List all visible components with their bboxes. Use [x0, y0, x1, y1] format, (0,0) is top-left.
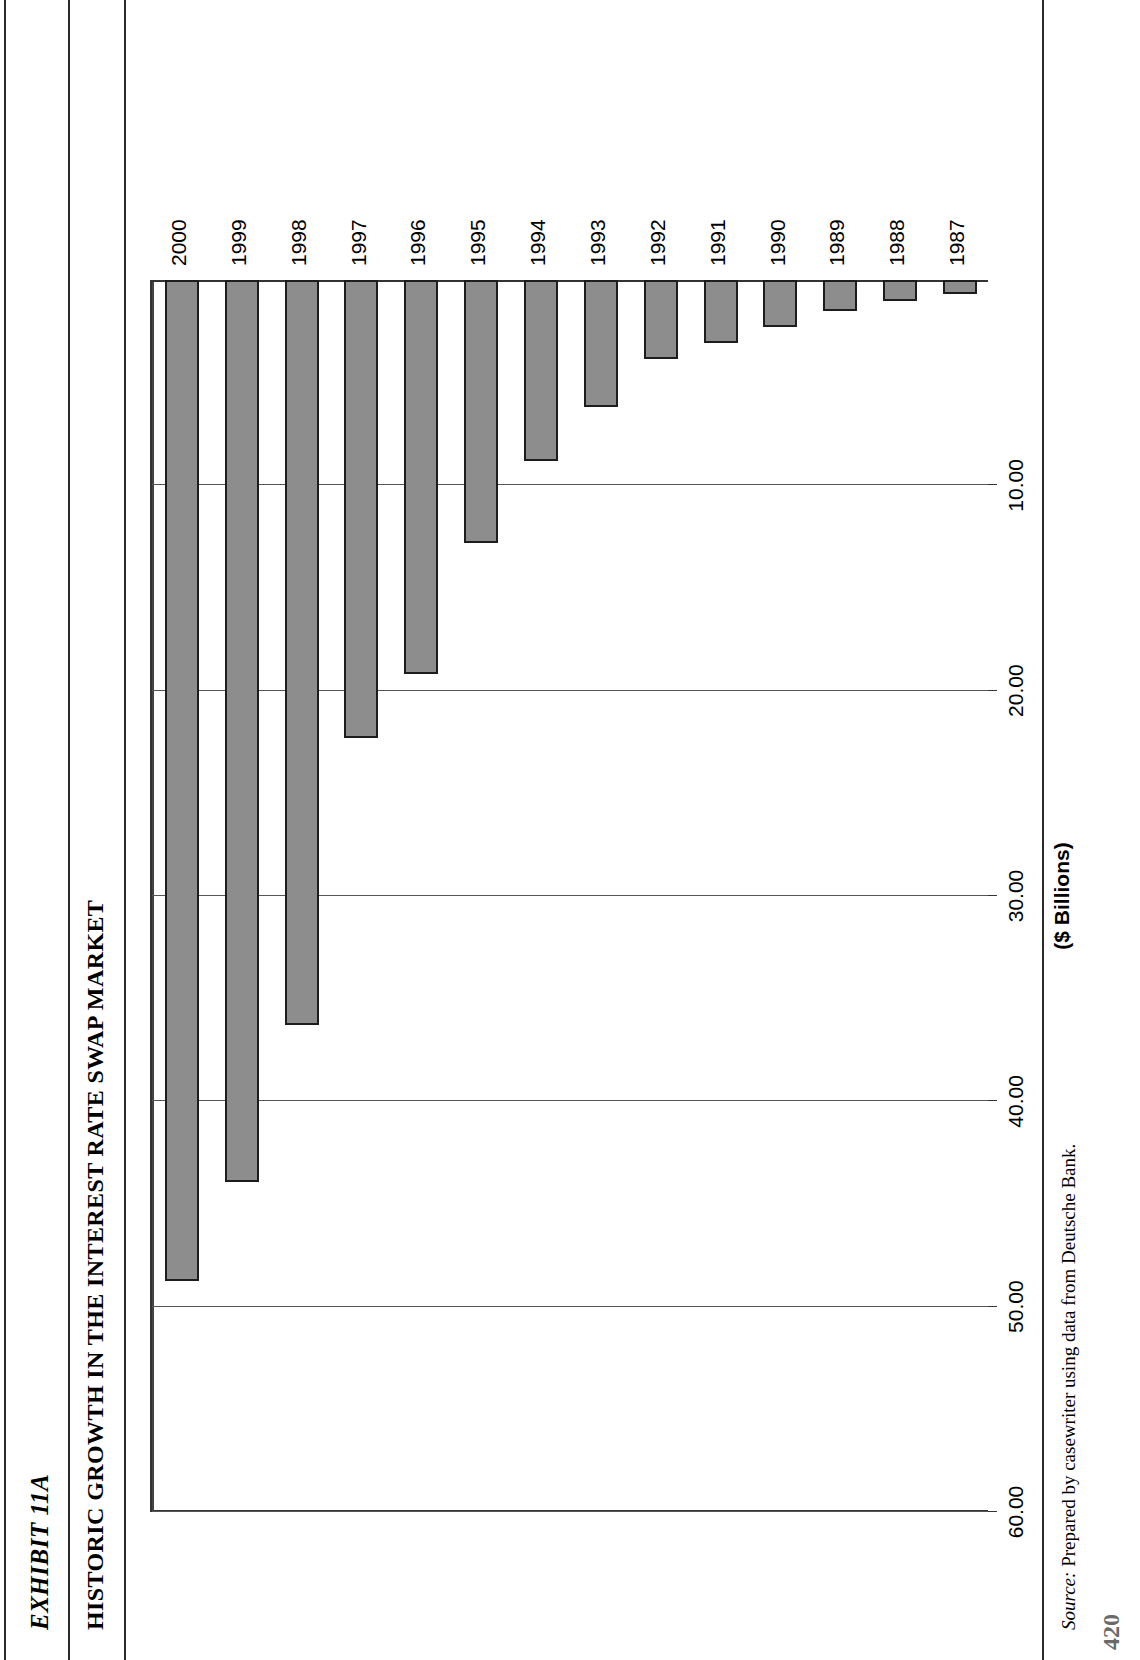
bar-1994	[524, 280, 558, 461]
bar-1995	[464, 280, 498, 543]
category-label-1993: 1993	[586, 219, 610, 266]
tick-40	[988, 1100, 997, 1101]
category-label-1992: 1992	[646, 219, 670, 266]
bar-row	[870, 280, 930, 1512]
bar-1999	[225, 280, 259, 1182]
bar-row	[511, 280, 571, 1512]
tick-50	[988, 1306, 997, 1307]
page-rule-under-label	[68, 0, 70, 1660]
category-label-1989: 1989	[825, 219, 849, 266]
bar-1988	[883, 280, 917, 301]
bar-1997	[344, 280, 378, 738]
bar-1998	[285, 280, 319, 1025]
bar-1987	[943, 280, 977, 294]
bar-1990	[763, 280, 797, 327]
bar-row	[571, 280, 631, 1512]
page-title: HISTORIC GROWTH IN THE INTEREST RATE SWA…	[82, 900, 109, 1630]
bar-1992	[644, 280, 678, 359]
category-label-1999: 1999	[227, 219, 251, 266]
category-label-1994: 1994	[526, 219, 550, 266]
bar-row	[212, 280, 272, 1512]
bar-row	[751, 280, 811, 1512]
value-label-30: 30.00	[1004, 870, 1028, 923]
bar-row	[152, 280, 212, 1512]
bar-1989	[823, 280, 857, 311]
source-prefix: Source:	[1058, 1572, 1079, 1630]
page-rule-under-title	[124, 0, 126, 1660]
value-label-60: 60.00	[1004, 1486, 1028, 1539]
category-label-1997: 1997	[347, 219, 371, 266]
category-label-1996: 1996	[406, 219, 430, 266]
category-label-1987: 1987	[945, 219, 969, 266]
category-label-1991: 1991	[706, 219, 730, 266]
bar-row	[391, 280, 451, 1512]
bar-row	[272, 280, 332, 1512]
bar-row	[631, 280, 691, 1512]
category-label-1998: 1998	[287, 219, 311, 266]
tick-20	[988, 690, 997, 691]
value-label-10: 10.00	[1004, 459, 1028, 512]
bar-row	[451, 280, 511, 1512]
page-rule-bottom	[1042, 0, 1044, 1660]
plot-area	[150, 280, 988, 1512]
tick-60	[988, 1511, 997, 1512]
source-note: Source: Prepared by casewriter using dat…	[1058, 1144, 1080, 1630]
exhibit-label: EXHIBIT 11A	[26, 1474, 54, 1630]
bar-1996	[404, 280, 438, 674]
category-label-1988: 1988	[885, 219, 909, 266]
category-label-1995: 1995	[466, 219, 490, 266]
bar-chart: 2000199919981997199619951994199319921991…	[150, 272, 1010, 1512]
source-text: Prepared by casewriter using data from D…	[1058, 1144, 1079, 1572]
bar-1991	[704, 280, 738, 343]
value-label-20: 20.00	[1004, 664, 1028, 717]
exhibit-page: EXHIBIT 11A HISTORIC GROWTH IN THE INTER…	[0, 0, 1140, 1660]
value-label-40: 40.00	[1004, 1075, 1028, 1128]
category-label-1990: 1990	[766, 219, 790, 266]
tick-10	[988, 484, 997, 485]
bar-1993	[584, 280, 618, 407]
bar-row	[691, 280, 751, 1512]
bar-row	[332, 280, 392, 1512]
bar-2000	[165, 280, 199, 1281]
tick-30	[988, 895, 997, 896]
value-label-50: 50.00	[1004, 1280, 1028, 1333]
bar-row	[930, 280, 990, 1512]
bar-row	[810, 280, 870, 1512]
category-label-2000: 2000	[167, 219, 191, 266]
page-rule-top	[4, 0, 6, 1660]
page-number: 420	[1098, 1614, 1125, 1650]
